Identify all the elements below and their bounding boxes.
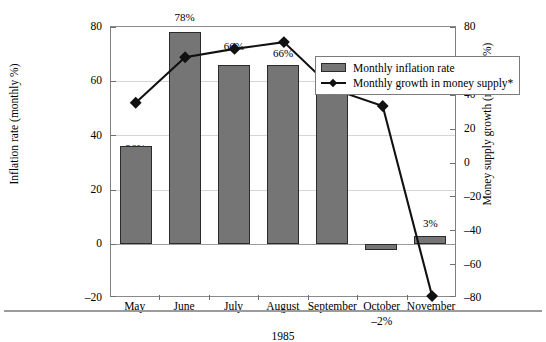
legend-line-diamond-icon <box>321 78 346 87</box>
data-point-marker[interactable] <box>377 100 389 112</box>
x-axis-title: 1985 <box>271 330 294 342</box>
right-axis-tick-label: –40 <box>464 225 494 237</box>
data-point-marker[interactable] <box>229 43 241 55</box>
right-axis-tick-label: –80 <box>464 292 494 304</box>
x-axis-tick <box>209 295 210 300</box>
chart-legend: Monthly inflation rate Monthly growth in… <box>315 56 520 95</box>
legend-label: Monthly inflation rate <box>353 62 455 74</box>
left-axis-tick-label: –20 <box>72 292 102 304</box>
left-axis-tick-label: 0 <box>72 238 102 250</box>
footer-rule <box>4 310 542 312</box>
left-axis-tick-label: 40 <box>72 130 102 142</box>
x-axis-tick <box>357 295 358 300</box>
legend-entry-inflation: Monthly inflation rate <box>321 60 513 75</box>
left-axis-tick-label: 20 <box>72 184 102 196</box>
bar-value-label: 78% <box>175 11 195 23</box>
left-axis-tick-label: 60 <box>72 75 102 87</box>
left-axis-tick-label: 80 <box>72 21 102 33</box>
october-negative-value-label: –2% <box>371 315 392 327</box>
x-axis-tick <box>159 295 160 300</box>
legend-entry-money-supply: Monthly growth in money supply* <box>321 75 513 90</box>
legend-bar-swatch-icon <box>321 63 346 72</box>
plot-area: 36% 78% 66% 66% 57% 3% <box>110 26 456 297</box>
left-axis-title: Inflation rate (monthly %) <box>8 44 20 204</box>
x-axis-tick <box>258 295 259 300</box>
right-axis-tick-label: –60 <box>464 259 494 271</box>
legend-label: Monthly growth in money supply* <box>353 77 513 89</box>
